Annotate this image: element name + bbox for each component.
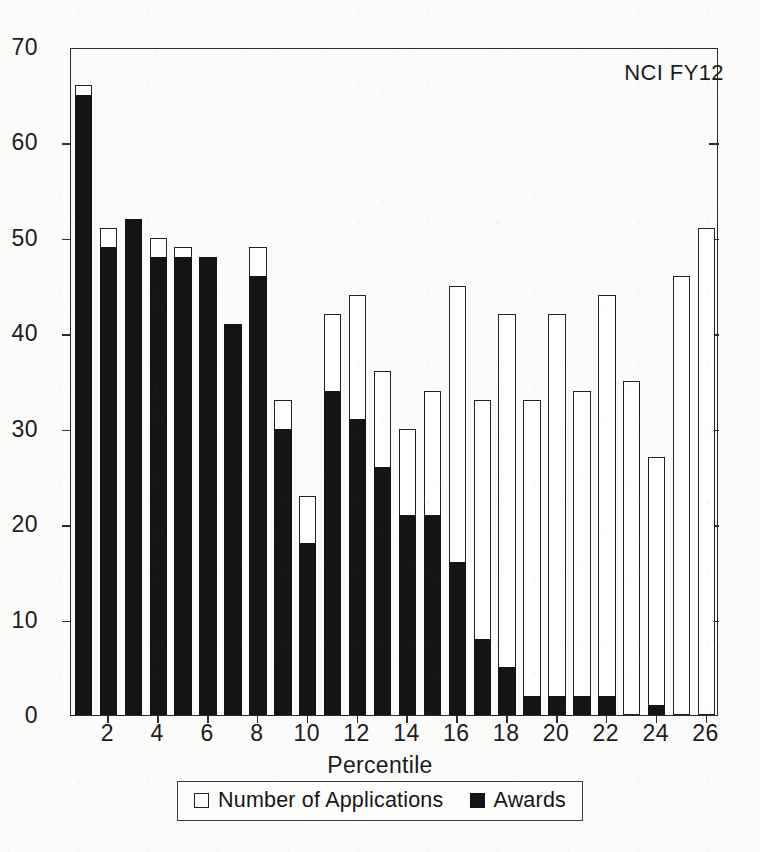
bar-group bbox=[125, 47, 142, 715]
x-tick-label: 20 bbox=[533, 722, 579, 745]
y-tick-label: 70 bbox=[0, 36, 38, 59]
bar-group bbox=[573, 47, 590, 715]
bar-group bbox=[100, 47, 117, 715]
series-annotation-label: NCI FY12 bbox=[624, 60, 724, 86]
y-tick-label: 30 bbox=[0, 418, 38, 441]
x-tick-mark bbox=[357, 716, 359, 723]
x-tick-label: 18 bbox=[483, 722, 529, 745]
bar-awards bbox=[374, 467, 391, 715]
bar-applications bbox=[648, 457, 665, 715]
bar-awards bbox=[174, 257, 191, 715]
bar-awards bbox=[449, 562, 466, 715]
bar-awards bbox=[324, 391, 341, 715]
x-tick-label: 4 bbox=[134, 722, 180, 745]
x-tick-label: 8 bbox=[234, 722, 280, 745]
bar-applications bbox=[673, 276, 690, 715]
bar-applications bbox=[548, 314, 565, 715]
bar-group bbox=[299, 47, 316, 715]
y-tick-label: 20 bbox=[0, 513, 38, 536]
bar-awards bbox=[199, 257, 216, 715]
y-tick-label: 60 bbox=[0, 131, 38, 154]
bar-group bbox=[150, 47, 167, 715]
bar-awards bbox=[498, 667, 515, 715]
bar-group bbox=[399, 47, 416, 715]
plot-frame bbox=[70, 48, 718, 716]
y-tick-label: 0 bbox=[0, 704, 38, 727]
x-tick-mark bbox=[107, 716, 109, 723]
bar-awards bbox=[648, 705, 665, 715]
x-tick-label: 24 bbox=[633, 722, 679, 745]
bar-group bbox=[449, 47, 466, 715]
chart-figure: 010203040506070 2468101214161820222426 N… bbox=[0, 0, 760, 852]
x-tick-mark bbox=[606, 716, 608, 723]
x-tick-label: 6 bbox=[184, 722, 230, 745]
legend-entry-awards: Awards bbox=[469, 788, 566, 813]
filled-square-icon bbox=[469, 793, 484, 808]
open-square-icon bbox=[194, 793, 209, 808]
bar-group bbox=[75, 47, 92, 715]
x-tick-label: 16 bbox=[433, 722, 479, 745]
bar-applications bbox=[573, 391, 590, 715]
plot-area bbox=[71, 49, 717, 715]
x-axis-title: Percentile bbox=[0, 752, 760, 779]
bar-group bbox=[498, 47, 515, 715]
x-tick-mark bbox=[656, 716, 658, 723]
bar-applications bbox=[598, 295, 615, 715]
bar-awards bbox=[75, 95, 92, 715]
bar-group bbox=[598, 47, 615, 715]
bar-awards bbox=[150, 257, 167, 715]
x-tick-mark bbox=[307, 716, 309, 723]
x-tick-mark bbox=[456, 716, 458, 723]
x-tick-mark bbox=[506, 716, 508, 723]
x-tick-label: 14 bbox=[383, 722, 429, 745]
bar-group bbox=[199, 47, 216, 715]
bar-group bbox=[374, 47, 391, 715]
bar-awards bbox=[474, 639, 491, 715]
legend-label-awards: Awards bbox=[493, 788, 566, 813]
bar-group bbox=[673, 47, 690, 715]
bar-group bbox=[349, 47, 366, 715]
legend-label-applications: Number of Applications bbox=[218, 788, 444, 813]
bar-applications bbox=[523, 400, 540, 715]
bar-awards bbox=[598, 696, 615, 715]
x-tick-label: 2 bbox=[84, 722, 130, 745]
y-tick-label: 10 bbox=[0, 609, 38, 632]
x-tick-mark bbox=[157, 716, 159, 723]
bar-awards bbox=[100, 247, 117, 715]
x-tick-mark bbox=[406, 716, 408, 723]
x-tick-mark bbox=[706, 716, 708, 723]
x-tick-mark bbox=[257, 716, 259, 723]
y-tick-label: 40 bbox=[0, 322, 38, 345]
bar-group bbox=[474, 47, 491, 715]
x-tick-label: 10 bbox=[284, 722, 330, 745]
bar-applications bbox=[498, 314, 515, 715]
x-tick-mark bbox=[207, 716, 209, 723]
x-tick-label: 26 bbox=[683, 722, 729, 745]
bar-group bbox=[698, 47, 715, 715]
bar-group bbox=[648, 47, 665, 715]
bar-group bbox=[174, 47, 191, 715]
bar-awards bbox=[224, 324, 241, 715]
bar-group bbox=[548, 47, 565, 715]
bar-awards bbox=[249, 276, 266, 715]
bar-group bbox=[224, 47, 241, 715]
bar-awards bbox=[573, 696, 590, 715]
bar-group bbox=[424, 47, 441, 715]
legend-entry-applications: Number of Applications bbox=[194, 788, 444, 813]
bar-applications bbox=[698, 228, 715, 715]
y-tick-label: 50 bbox=[0, 227, 38, 250]
x-tick-mark bbox=[556, 716, 558, 723]
x-tick-label: 12 bbox=[334, 722, 380, 745]
bar-awards bbox=[424, 515, 441, 715]
bar-awards bbox=[274, 429, 291, 715]
bar-awards bbox=[523, 696, 540, 715]
bar-awards bbox=[399, 515, 416, 715]
x-tick-label: 22 bbox=[583, 722, 629, 745]
bar-group bbox=[523, 47, 540, 715]
bar-awards bbox=[548, 696, 565, 715]
bar-applications bbox=[623, 381, 640, 715]
chart-legend: Number of Applications Awards bbox=[177, 781, 583, 821]
bar-awards bbox=[125, 219, 142, 715]
bar-group bbox=[324, 47, 341, 715]
bar-awards bbox=[299, 543, 316, 715]
